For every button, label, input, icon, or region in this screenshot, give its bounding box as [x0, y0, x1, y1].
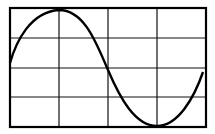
sine-wave-diagram — [0, 0, 215, 134]
